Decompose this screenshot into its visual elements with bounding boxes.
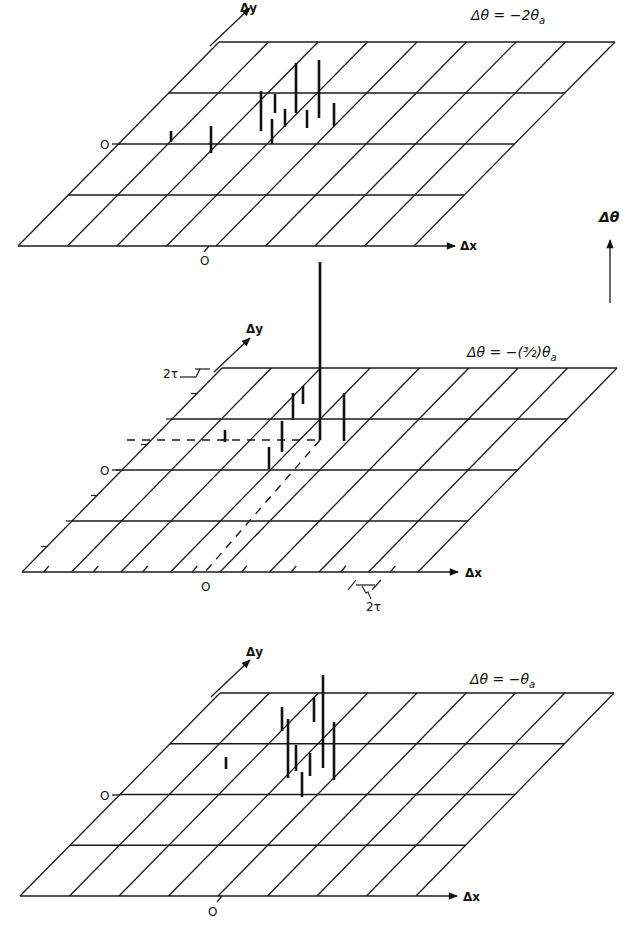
dy-axis-label: Δy — [246, 322, 263, 336]
x-origin-label: O — [208, 905, 217, 919]
x-scale-tick — [143, 566, 148, 572]
scale-marker-y-bar — [196, 369, 200, 377]
spikes-top — [171, 60, 334, 153]
x-scale-tick — [44, 566, 49, 572]
x-origin-label: O — [200, 254, 209, 268]
dx-axis-label: Δx — [465, 566, 482, 580]
x-origin-tick — [204, 246, 209, 252]
scale-label-y: 2τ — [163, 367, 178, 381]
dy-axis-label: Δy — [240, 1, 257, 15]
panel-middle: Δy Δx O O Δθ = −(³⁄₂)θa 2τ 2τ — [22, 262, 617, 614]
peak-projection-x — [205, 440, 320, 572]
figure-canvas: Δy Δx O O Δθ = −2θa Δθ Δy Δx O O Δθ = −(… — [0, 0, 631, 929]
x-scale-tick — [291, 566, 296, 572]
ticks-middle — [41, 394, 395, 573]
scale-marker-x-left — [348, 580, 356, 590]
x-origin-label: O — [201, 580, 210, 594]
y-origin-label: O — [100, 789, 109, 803]
scale-label-x: 2τ — [366, 600, 381, 614]
x-origin-tick — [217, 896, 222, 902]
y-origin-label: O — [100, 138, 109, 152]
dx-axis-label: Δx — [460, 239, 477, 253]
panel-bottom: Δy Δx O O Δθ = −θa — [20, 645, 614, 919]
panel-title-top: Δθ = −2θa — [470, 7, 545, 26]
x-scale-tick — [390, 566, 395, 572]
x-scale-tick — [341, 566, 346, 572]
dy-axis-arrow-icon — [214, 338, 250, 372]
x-scale-tick — [192, 566, 197, 572]
dx-axis-label: Δx — [463, 890, 480, 904]
theta-axis: Δθ — [598, 209, 620, 303]
panel-title-bottom: Δθ = −θa — [469, 671, 535, 690]
y-origin-label: O — [100, 464, 109, 478]
dy-axis-arrow-icon — [211, 660, 250, 697]
scale-pointer-icon — [362, 586, 371, 599]
panel-top: Δy Δx O O Δθ = −2θa — [18, 1, 615, 268]
x-scale-tick — [242, 566, 247, 572]
theta-axis-label: Δθ — [598, 209, 620, 225]
x-scale-tick — [93, 566, 98, 572]
panel-title-middle: Δθ = −(³⁄₂)θa — [466, 344, 557, 363]
spikes-middle — [225, 262, 344, 469]
dy-axis-label: Δy — [246, 645, 263, 659]
